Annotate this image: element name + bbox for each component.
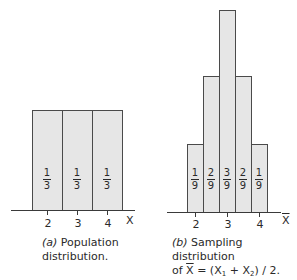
bar-label-x-2: 13 <box>42 168 52 191</box>
bar-xbar-2-5 <box>203 76 220 213</box>
x-bar-axis-label: X <box>282 214 290 227</box>
bar-label-xbar-2: 19 <box>190 168 200 191</box>
bar-label-xbar-2-5: 29 <box>206 168 216 191</box>
bar-x-3 <box>62 110 93 211</box>
tick-label-3: 3 <box>70 217 86 230</box>
caption-b: (b) Sampling distribution of X = (X1 + X… <box>172 236 297 280</box>
tick-label-4: 4 <box>100 217 116 230</box>
x-axis <box>11 210 135 211</box>
bar-label-xbar-3-5: 29 <box>238 168 248 191</box>
tick-2 <box>47 211 48 215</box>
bar-label-x-3: 13 <box>72 168 82 191</box>
bar-xbar-3-5 <box>235 76 252 213</box>
caption-a: (a) Population distribution. <box>42 236 119 264</box>
tick-3 <box>77 211 78 215</box>
bar-x-2 <box>32 110 63 211</box>
tick-label-3: 3 <box>220 218 236 231</box>
tick-2 <box>195 213 196 217</box>
bar-label-x-4: 13 <box>102 168 112 191</box>
tick-label-2: 2 <box>40 217 56 230</box>
bar-label-xbar-3: 39 <box>222 168 232 191</box>
bar-label-xbar-4: 19 <box>254 168 264 191</box>
tick-4 <box>107 211 108 215</box>
x-axis <box>167 212 281 213</box>
tick-4 <box>259 213 260 217</box>
tick-3 <box>227 213 228 217</box>
x-axis-label: X <box>126 214 134 227</box>
tick-label-4: 4 <box>252 218 268 231</box>
tick-label-2: 2 <box>188 218 204 231</box>
bar-x-4 <box>92 110 123 211</box>
